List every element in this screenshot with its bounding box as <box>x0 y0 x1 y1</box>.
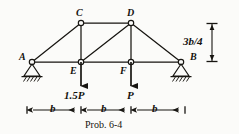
joint-label-D: D <box>127 8 134 18</box>
truss-figure: A C D B E F 1.5P P b b b 3b/4 Prob. 6-4 <box>0 0 239 134</box>
member-A-C <box>32 23 81 62</box>
support-B-hatching <box>173 77 190 82</box>
vdim-arrow-top <box>210 24 215 30</box>
support-B <box>171 64 192 82</box>
dim-label-span-1: b <box>50 103 56 114</box>
member-D-B <box>131 23 181 62</box>
joint-label-B: B <box>190 52 197 62</box>
joint-D <box>128 20 133 25</box>
vertical-dimension-line <box>207 24 218 62</box>
figure-caption: Prob. 6-4 <box>85 120 122 130</box>
joint-label-F: F <box>120 66 127 76</box>
joint-label-C: C <box>76 8 83 18</box>
load-label-E: 1.5P <box>64 90 84 101</box>
support-A-triangle <box>24 64 40 76</box>
joint-label-A: A <box>19 52 26 62</box>
load-label-F: P <box>127 90 134 101</box>
joint-label-E: E <box>70 66 77 76</box>
dim-label-height: 3b/4 <box>183 36 203 47</box>
dim-label-span-2: b <box>101 103 107 114</box>
joint-C <box>78 20 83 25</box>
support-B-triangle <box>173 64 189 76</box>
truss-members <box>32 23 181 62</box>
member-E-D <box>81 23 131 62</box>
support-A <box>22 64 43 82</box>
vdim-arrow-bottom <box>210 55 215 61</box>
dim-label-span-3: b <box>152 103 158 114</box>
support-A-hatching <box>24 77 41 82</box>
